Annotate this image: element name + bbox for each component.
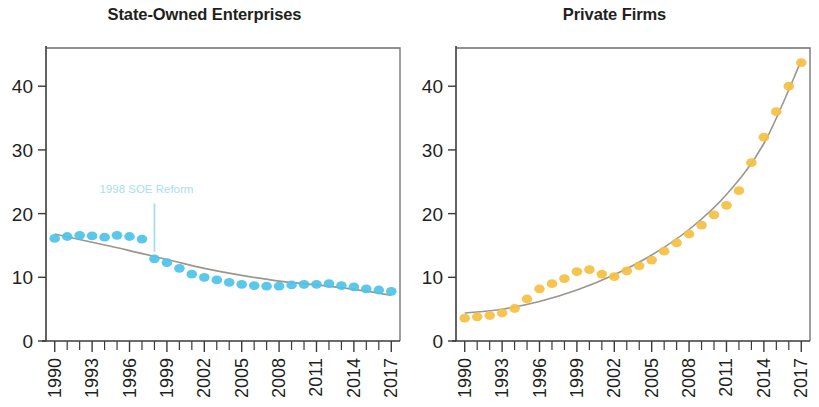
x-tick-label: 1996 (120, 358, 140, 398)
figure-two-panel-scatter: State-Owned Enterprises 0102030401990199… (0, 0, 819, 407)
data-point (249, 281, 260, 290)
data-point (261, 282, 272, 291)
x-tick-label: 1993 (82, 358, 102, 398)
data-point (659, 247, 670, 256)
data-point (746, 158, 757, 167)
y-tick-label: 30 (422, 140, 443, 161)
data-point (509, 304, 520, 313)
panel-state-owned-enterprises: State-Owned Enterprises 0102030401990199… (0, 0, 409, 407)
data-point (472, 312, 483, 321)
x-tick-label: 2014 (344, 358, 364, 398)
x-tick-label: 2014 (754, 358, 774, 398)
data-point (149, 254, 160, 263)
data-point (522, 295, 533, 304)
data-point (99, 233, 110, 242)
data-point (759, 133, 770, 142)
x-tick-label: 1996 (530, 358, 550, 398)
data-point (559, 274, 570, 283)
data-point (311, 280, 322, 289)
x-tick-label: 2017 (381, 358, 401, 398)
plot-frame (456, 48, 810, 341)
x-tick-label: 1990 (45, 358, 65, 398)
data-point (386, 287, 397, 296)
data-point (547, 279, 558, 288)
data-point (349, 283, 360, 292)
data-point (609, 272, 620, 281)
y-tick-label: 0 (22, 331, 33, 352)
data-point (212, 276, 223, 285)
data-point (459, 314, 470, 323)
data-point (112, 231, 123, 240)
data-point (671, 239, 682, 248)
x-tick-label: 2002 (604, 358, 624, 398)
data-point (374, 286, 385, 295)
y-tick-label: 20 (422, 204, 443, 225)
data-point (572, 267, 583, 276)
data-point (236, 280, 247, 289)
y-tick-label: 10 (422, 267, 443, 288)
data-point (771, 107, 782, 116)
data-point (684, 230, 695, 239)
data-point (622, 267, 633, 276)
data-point (162, 258, 173, 267)
data-point (734, 186, 745, 195)
data-point (796, 58, 807, 67)
chart-svg-soe: 0102030401990199319961999200220052008201… (0, 0, 409, 407)
x-tick-label: 1999 (567, 358, 587, 398)
data-point (497, 309, 508, 318)
y-tick-label: 0 (432, 331, 443, 352)
data-point (721, 201, 732, 210)
annotation-label: 1998 SOE Reform (99, 183, 193, 195)
data-point (646, 256, 657, 265)
x-tick-label: 1990 (455, 358, 475, 398)
x-tick-label: 2005 (642, 358, 662, 398)
data-point (286, 281, 297, 290)
data-point (124, 232, 135, 241)
data-point (174, 264, 185, 273)
y-tick-label: 40 (12, 76, 33, 97)
panel-private-firms: Private Firms 01020304019901993199619992… (410, 0, 819, 407)
data-point (584, 265, 595, 274)
x-tick-label: 2011 (306, 358, 326, 397)
data-point (597, 270, 608, 279)
data-point (299, 280, 310, 289)
y-tick-label: 10 (12, 267, 33, 288)
data-point (484, 311, 495, 320)
data-point (634, 261, 645, 270)
data-point (199, 273, 210, 282)
data-point (87, 232, 98, 241)
data-point (336, 281, 347, 290)
x-tick-label: 1993 (492, 358, 512, 398)
data-point (709, 211, 720, 220)
y-tick-label: 20 (12, 204, 33, 225)
data-point (62, 232, 73, 241)
data-point (324, 279, 335, 288)
y-tick-label: 40 (422, 76, 443, 97)
x-tick-label: 2008 (679, 358, 699, 398)
trend-line (465, 61, 802, 313)
x-tick-label: 2005 (232, 358, 252, 398)
data-point (187, 270, 198, 279)
y-tick-label: 30 (12, 140, 33, 161)
data-point (784, 82, 795, 91)
data-point (137, 235, 148, 244)
data-point (274, 282, 285, 291)
x-tick-label: 1999 (157, 358, 177, 398)
chart-svg-private: 0102030401990199319961999200220052008201… (410, 0, 819, 407)
data-point (74, 231, 85, 240)
data-point (224, 278, 235, 287)
x-tick-label: 2002 (194, 358, 214, 398)
data-point (49, 234, 60, 243)
x-tick-label: 2008 (269, 358, 289, 398)
data-point (361, 284, 372, 293)
x-tick-label: 2011 (716, 358, 736, 397)
x-tick-label: 2017 (791, 358, 811, 398)
data-point (696, 221, 707, 230)
data-point (534, 284, 545, 293)
